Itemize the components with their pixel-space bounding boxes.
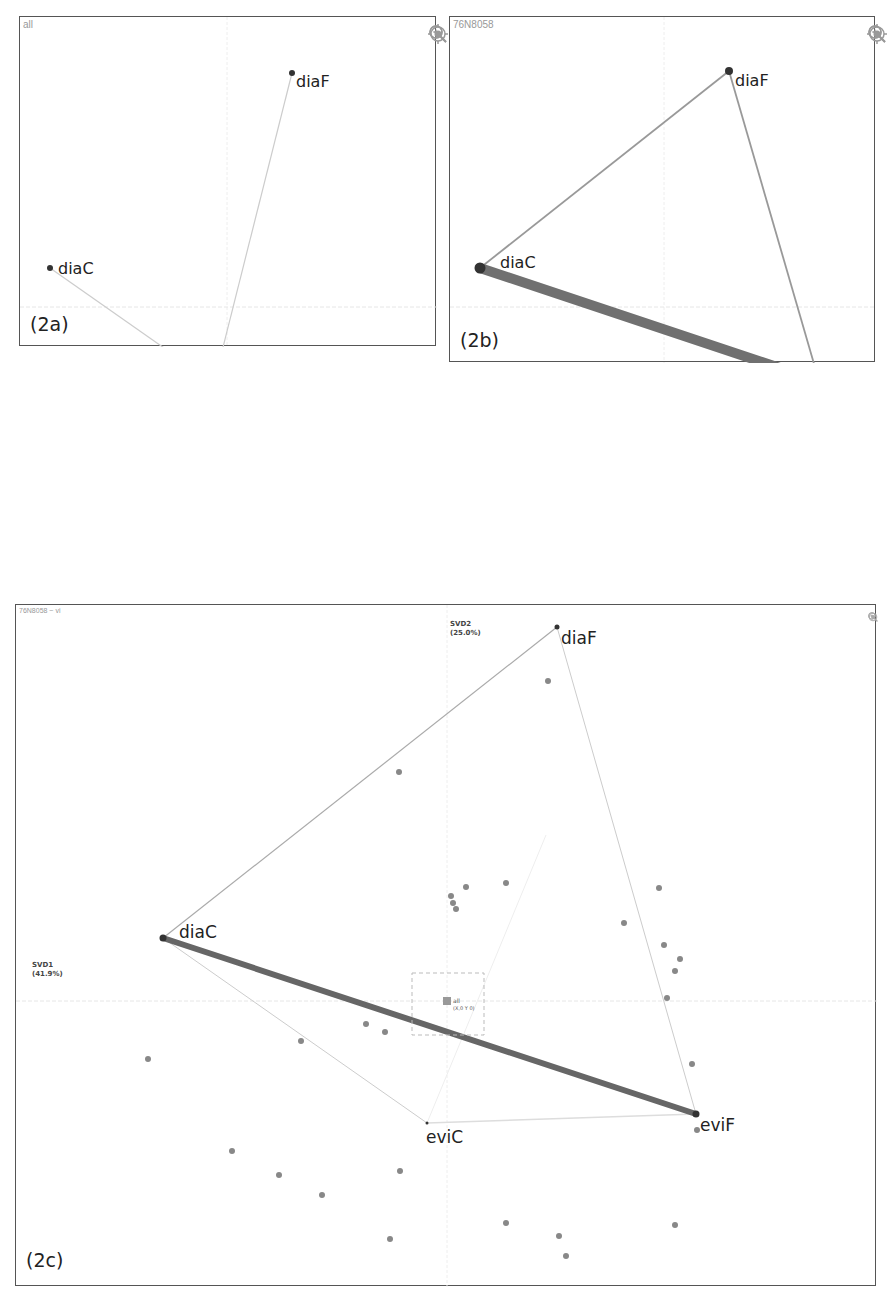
node-diaC bbox=[47, 265, 53, 271]
plot-2b[interactable]: diaF diaC eviC eviF bbox=[450, 17, 876, 363]
svg-text:diaC: diaC bbox=[500, 253, 536, 272]
sample-points bbox=[145, 678, 700, 1259]
panel-2a: all diaF diaC eviC eviF (2a) bbox=[19, 16, 436, 346]
svg-text:eviC: eviC bbox=[426, 1127, 463, 1147]
plot-2c[interactable]: SVD1 (41.9%) SVD2 (25.0%) all (X,0 Y 0) bbox=[16, 605, 877, 1287]
svg-text:diaF: diaF bbox=[561, 628, 597, 648]
recenter-icon[interactable] bbox=[866, 23, 888, 45]
node-diaC bbox=[475, 263, 486, 274]
axis-y-label: SVD2 bbox=[450, 620, 471, 628]
panel-tag: (2c) bbox=[26, 1249, 63, 1271]
panel-2b: 76N8058 diaF diaC eviC eviF (2b) bbox=[449, 16, 875, 362]
node-eviC bbox=[426, 1122, 429, 1125]
axis-y-pct: (25.0%) bbox=[450, 629, 481, 637]
center-sublabel: (X,0 Y 0) bbox=[453, 1005, 475, 1011]
svg-text:diaF: diaF bbox=[296, 72, 330, 91]
recenter-icon[interactable] bbox=[867, 611, 879, 623]
center-label: all bbox=[453, 997, 460, 1004]
panel-2c: 76N8058 ~ vi SVD1 (41.9%) SVD2 (25.0%) a… bbox=[15, 604, 876, 1286]
svg-text:diaC: diaC bbox=[58, 259, 94, 278]
node-diaF bbox=[555, 625, 560, 630]
node-diaF bbox=[289, 70, 295, 76]
svg-text:eviF: eviF bbox=[700, 1115, 735, 1135]
panel-tag: (2a) bbox=[30, 313, 69, 335]
panel-tag: (2b) bbox=[460, 329, 499, 351]
node-diaF bbox=[725, 67, 733, 75]
node-eviF bbox=[693, 1111, 700, 1118]
svg-text:diaF: diaF bbox=[735, 71, 769, 90]
axis-x-label: SVD1 bbox=[32, 961, 53, 969]
recenter-icon[interactable] bbox=[427, 23, 449, 45]
axis-x-pct: (41.9%) bbox=[32, 970, 63, 978]
plot-2a[interactable]: diaF diaC eviC eviF bbox=[20, 17, 437, 347]
svg-text:diaC: diaC bbox=[179, 922, 217, 942]
node-diaC bbox=[160, 935, 167, 942]
